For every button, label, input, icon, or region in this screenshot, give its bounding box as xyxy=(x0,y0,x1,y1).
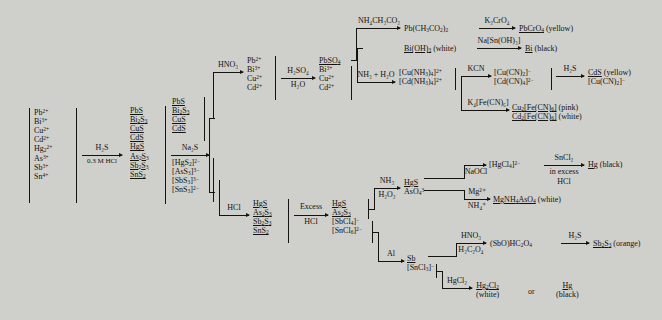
hg-bottom-product: Hg(black) xyxy=(556,281,579,299)
product-pb-acetate: Pb(CH3CO2)2 xyxy=(404,25,448,33)
reagent-hcl-03m: 0.3 M HCl xyxy=(77,158,127,166)
reagent-h2c2o4: H₂C₂O₄ xyxy=(452,246,490,255)
hg-bottom-line-0: Hg xyxy=(556,281,579,290)
connector-exhcl-up-stub xyxy=(368,209,375,210)
cds-output-1: [Cu(CN)2]− xyxy=(588,77,631,86)
bracket-insol-right xyxy=(204,97,205,141)
hg2cl2-product: Hg2Cl2(white) xyxy=(476,281,499,299)
excess-hcl-product-0: HgS xyxy=(332,199,362,208)
reagent-excess-hcl-1: Excess xyxy=(291,203,331,212)
arrow-nh4ch3co2 xyxy=(356,28,400,29)
reagent-naocl: NaOCl xyxy=(460,168,492,177)
bracket-thio-right xyxy=(213,158,214,202)
arrow-hno3 xyxy=(213,72,243,73)
hg2cl2-line-0: Hg2Cl2 xyxy=(476,281,499,290)
hg-bottom-line-1: (black) xyxy=(556,290,579,299)
reagent-hgcl2: HgCl₂ xyxy=(440,277,474,286)
reagent-h2so4: H₂SO₄ xyxy=(280,67,316,76)
reagent-nh4: NH₄⁺ xyxy=(461,202,493,211)
excess-hcl-product-3: [SnCl6]2− xyxy=(332,226,362,235)
reagent-nh4ch3co2: NH₄CH₃CO₂ xyxy=(353,17,405,26)
arrow-naocl xyxy=(464,165,486,166)
bracket-hno3-right xyxy=(275,56,276,100)
product-hgcl4: [HgCl4]2− xyxy=(489,161,520,169)
split-na2s-down xyxy=(209,192,215,193)
arrow-mg-nh4 xyxy=(464,199,490,200)
arrow-nh3-h2o xyxy=(357,82,395,83)
split-nh3-up xyxy=(357,48,363,49)
reagent-mg2: Mg²⁺ xyxy=(461,188,493,197)
bracket-h2so4-right xyxy=(351,66,352,100)
bracket-sulfides-right xyxy=(165,106,166,204)
reagent-sncl2-2: in excess xyxy=(541,168,587,177)
reagent-al: Al xyxy=(376,250,406,259)
h2so4-product-list: PbSO4Bi3+Cu2+Cd2+ xyxy=(319,56,340,92)
sulfide-4: HgS xyxy=(130,142,149,151)
bracket-hclsulf-right xyxy=(288,199,289,243)
sulfide-5: As2S3 xyxy=(130,152,149,161)
cds-output-list: CdS (yellow)[Cu(CN)2]− xyxy=(588,68,631,86)
connector-insol-hno3 xyxy=(213,72,214,118)
insoluble-sulfide-3: CdS xyxy=(172,124,189,133)
reagent-kcn: KCN xyxy=(460,65,492,74)
start-ion-list: Pb2+Bi3+Cu2+Cd2+Hg22+As3+Sb3+Sn4+ xyxy=(34,108,52,181)
reagent-na-sn-oh-3: Na[Sn(OH)₃] xyxy=(470,37,528,46)
sulfide-precipitate-list: PbSBi2S3CuSCdSHgSAs2S3Sb2S3SnS2 xyxy=(130,106,149,179)
insoluble-sulfide-1: Bi2S3 xyxy=(172,106,189,115)
insoluble-sulfides-list: PbSBi2S3CuSCdS xyxy=(172,97,189,133)
nh3-h2o2-product-list: HgSAsO43− xyxy=(404,178,427,196)
product-sbo-oxalate: (SbO)HC2O4 xyxy=(490,240,532,248)
arrow-k4fecn6 xyxy=(467,110,509,111)
split-na2s-vertical xyxy=(209,118,210,192)
bracket-start xyxy=(29,108,30,203)
reagent-h2o: H₂O xyxy=(280,81,316,90)
arrow-hno3-2 xyxy=(456,243,486,244)
ferrocyanide-product-0: Cu2[Fe(CN)6] (pink) xyxy=(512,103,582,112)
sulfide-1: Bi2S3 xyxy=(130,115,149,124)
product-hg-black: Hg (black) xyxy=(588,161,622,169)
al-product-1: [SnCl3]− xyxy=(407,263,434,272)
arrow-h2s-2 xyxy=(556,76,584,77)
reagent-hcl: HCl xyxy=(218,204,250,213)
arrow-hgcl2 xyxy=(442,288,472,289)
product-pbcro4: PbCrO4 (yellow) xyxy=(519,25,573,33)
flowchart-canvas: Pb2+Bi3+Cu2+Cd2+Hg22+As3+Sb3+Sn4+ H₂S 0.… xyxy=(0,0,662,320)
hcl-sulfide-2: Sb2S3 xyxy=(253,217,272,226)
hg2cl2-line-1: (white) xyxy=(476,290,499,299)
product-bi-black: Bi (black) xyxy=(525,45,557,53)
connector-thio-hcl xyxy=(219,180,220,215)
reagent-hno3-2: HNO₃ xyxy=(454,232,488,241)
line-sncl3-stub xyxy=(436,271,443,272)
arrow-kcn xyxy=(461,76,491,77)
excess-hcl-product-list: HgSAs2S3[SbCl4]−[SnCl6]2− xyxy=(332,199,362,235)
reagent-nh3: NH₃ xyxy=(372,177,402,186)
hno3-ion-list: Pb2+Bi3+Cu2+Cd2+ xyxy=(247,56,262,92)
arrow-al xyxy=(378,261,404,262)
arrow-hcl xyxy=(219,215,249,216)
bracket-start-right xyxy=(76,108,77,203)
arrow-h2s-3 xyxy=(561,243,589,244)
ferrocyanide-product-list: Cu2[Fe(CN)6] (pink)Cd2[Fe(CN)6] (white) xyxy=(512,103,582,121)
line-aso4-mg xyxy=(424,190,464,191)
product-mgnh4aso4: MgNH4AsO4 (white) xyxy=(493,196,561,204)
reagent-h2s-3: H₂S xyxy=(560,232,590,241)
sulfide-2: CuS xyxy=(130,124,149,133)
reagent-h2s-2: H₂S xyxy=(555,65,585,74)
arrow-h2s xyxy=(82,155,122,156)
arrow-nh3-h2o2 xyxy=(374,188,400,189)
sulfide-7: SnS2 xyxy=(130,170,149,179)
reagent-nh3-h2o: NH₃ + H₂O xyxy=(353,71,399,80)
product-sb2s3: Sb2S3 (orange) xyxy=(593,240,640,248)
h2so4-product-3: Cd2+ xyxy=(319,83,340,92)
sulfide-3: CdS xyxy=(130,133,149,142)
hcl-sulfide-1: As2S3 xyxy=(253,208,272,217)
line-hgs-naocl xyxy=(424,178,464,179)
reagent-sncl2-3: HCl xyxy=(541,178,587,187)
ferrocyanide-product-1: Cd2[Fe(CN)6] (white) xyxy=(512,112,582,121)
reagent-k2cro4: K₂CrO₄ xyxy=(478,17,516,26)
insoluble-sulfide-2: CuS xyxy=(172,115,189,124)
bracket-ammine-right xyxy=(455,68,456,90)
nh3-h2o2-product-1: AsO43− xyxy=(404,187,427,196)
ammine-1: [Cd(NH3)4]2+ xyxy=(399,77,442,86)
or-label: or xyxy=(528,288,535,296)
